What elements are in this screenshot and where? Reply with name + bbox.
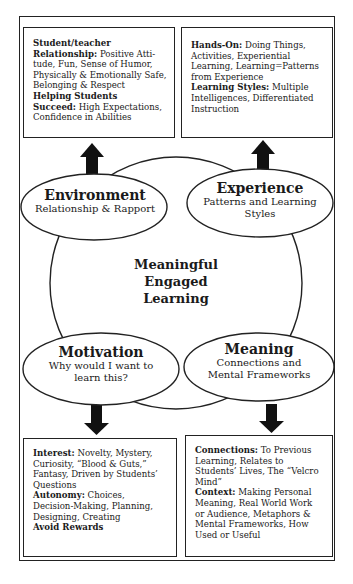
experience-title: Experience	[188, 181, 332, 196]
box-line: Interest: Novelty, Mystery,	[33, 448, 170, 459]
meaning-details-box: Connections: To Previous Learning, Relat…	[185, 435, 333, 557]
environment-subtitle: Relationship & Rapport	[24, 203, 166, 215]
box-line: Students’ Lives, The “Velcro	[195, 466, 326, 477]
motivation-details-box: Interest: Novelty, Mystery, Curiosity, “…	[23, 438, 177, 557]
center-title-line: Learning	[116, 290, 236, 307]
box-line: Avoid Rewards	[33, 522, 170, 533]
center-title-line: Engaged	[116, 273, 236, 290]
box-line: Mental Frameworks, How	[195, 519, 326, 530]
box-line: Used or Useful	[195, 530, 326, 541]
environment-label: Environment Relationship & Rapport	[24, 188, 166, 215]
box-line: Connections: To Previous	[195, 445, 326, 456]
meaning-title: Meaning	[186, 342, 332, 357]
box-line: Decision-Making, Planning,	[33, 501, 170, 512]
center-title-line: Meaningful	[116, 256, 236, 273]
box-line: or Audience, Metaphors &	[195, 509, 326, 520]
arrow-down-icon	[84, 405, 109, 435]
motivation-label: Motivation Why would I want to learn thi…	[26, 345, 176, 384]
arrow-up-icon	[80, 143, 104, 174]
box-line: Autonomy: Choices,	[33, 490, 170, 501]
meaning-label: Meaning Connections and Mental Framework…	[186, 342, 332, 381]
box-line: Meaning, Real World Work	[195, 498, 326, 509]
center-title: Meaningful Engaged Learning	[116, 256, 236, 307]
arrow-up-icon	[251, 140, 275, 172]
arrow-down-icon	[259, 404, 284, 433]
experience-label: Experience Patterns and Learning Styles	[188, 181, 332, 220]
box-line: Designing, Creating	[33, 512, 170, 523]
motivation-subtitle-2: learn this?	[26, 372, 176, 384]
environment-title: Environment	[24, 188, 166, 203]
box-line: Questions	[33, 480, 170, 491]
box-line: Context: Making Personal	[195, 487, 326, 498]
motivation-subtitle-1: Why would I want to	[26, 360, 176, 372]
motivation-title: Motivation	[26, 345, 176, 360]
meaning-subtitle-2: Mental Frameworks	[186, 369, 332, 381]
meaning-subtitle-1: Connections and	[186, 357, 332, 369]
box-line: Mind”	[195, 477, 326, 488]
box-line: Curiosity, “Blood & Guts,”	[33, 459, 170, 470]
experience-subtitle-2: Styles	[188, 208, 332, 220]
experience-subtitle-1: Patterns and Learning	[188, 196, 332, 208]
box-line: Fantasy, Driven by Students’	[33, 469, 170, 480]
box-line: Learning, Relates to	[195, 456, 326, 467]
